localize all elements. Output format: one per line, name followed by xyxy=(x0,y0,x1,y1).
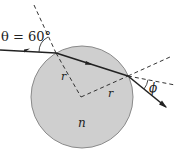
exit-ray xyxy=(128,76,166,107)
theta-label: θ = 60° xyxy=(1,29,51,44)
phi-label: ϕ xyxy=(149,81,157,95)
r-right-label: r xyxy=(108,87,114,100)
refraction-diagram: θ = 60° r r ϕ n xyxy=(0,0,176,150)
phi-arc xyxy=(144,80,148,89)
incident-ray xyxy=(0,50,56,53)
r-left-label: r xyxy=(61,70,67,83)
exit-normal-outside xyxy=(128,57,170,76)
refractive-index-label: n xyxy=(78,116,86,130)
